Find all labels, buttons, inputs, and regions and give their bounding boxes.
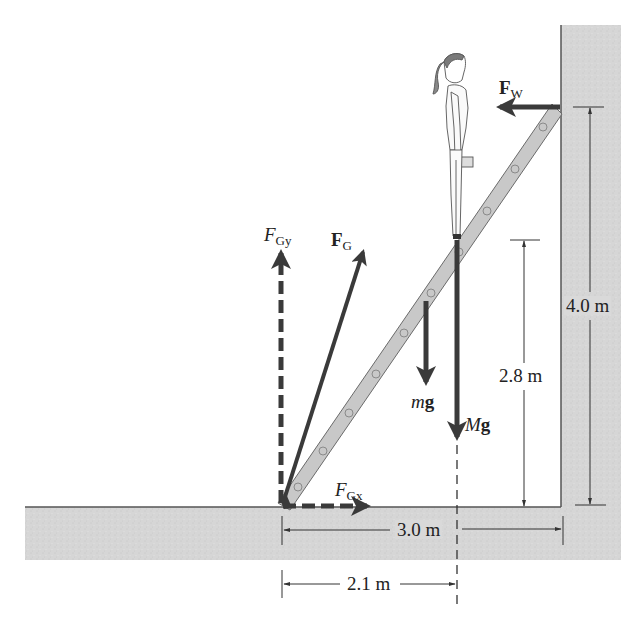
diagram-canvas — [0, 0, 638, 623]
label-fg-sub: G — [343, 238, 352, 253]
ladder — [278, 104, 562, 510]
label-Mg-g: g — [481, 414, 491, 435]
label-fw-sub: W — [511, 86, 523, 101]
label-fg-main: F — [331, 229, 343, 250]
label-mg-m: m — [411, 391, 425, 412]
label-fw-main: F — [499, 77, 511, 98]
label-mg: mg — [411, 392, 434, 411]
dimension-label-3-0m: 3.0 m — [395, 520, 442, 539]
person-figure — [433, 54, 473, 239]
ladder-force-diagram: FW FG FGy FGx mg Mg 2.8 m 4.0 m 3.0 m 2.… — [0, 0, 638, 623]
dimension-label-2-8m: 2.8 m — [497, 366, 544, 385]
dimension-label-2-1m: 2.1 m — [345, 574, 392, 593]
label-fgx: FGx — [335, 480, 363, 502]
dimension-label-4-0m: 4.0 m — [564, 296, 611, 315]
label-fgy: FGy — [264, 225, 292, 247]
label-fgx-sub: Gx — [347, 488, 363, 503]
label-fg: FG — [331, 230, 352, 252]
label-Mg: Mg — [465, 415, 490, 434]
label-Mg-M: M — [465, 414, 481, 435]
ground — [25, 507, 581, 560]
label-fgx-main: F — [335, 479, 347, 500]
wall — [561, 25, 621, 560]
label-fw: FW — [499, 78, 523, 100]
label-fgy-sub: Gy — [276, 233, 292, 248]
label-mg-g: g — [425, 391, 435, 412]
label-fgy-main: F — [264, 224, 276, 245]
vector-fg — [283, 252, 363, 503]
